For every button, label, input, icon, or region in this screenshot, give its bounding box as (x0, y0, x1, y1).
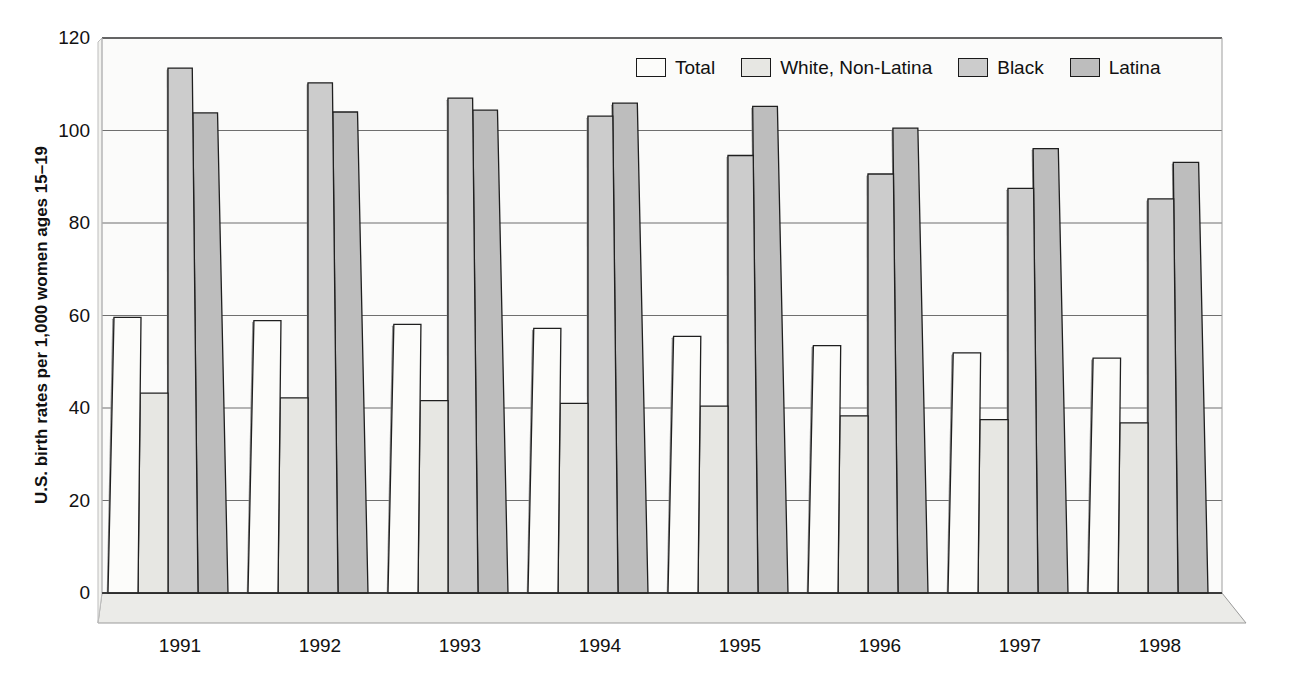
bar (308, 83, 338, 593)
bar (388, 324, 421, 593)
bar (1008, 188, 1038, 593)
plot-area (0, 0, 1290, 674)
bar (448, 98, 478, 593)
legend-label: Latina (1109, 58, 1161, 77)
bar (698, 406, 728, 593)
legend-label: White, Non-Latina (780, 58, 932, 77)
legend-item[interactable]: Latina (1070, 58, 1161, 77)
bar (1148, 199, 1178, 593)
bar (588, 116, 618, 593)
bar (978, 420, 1008, 593)
bar (808, 346, 841, 593)
bar (418, 401, 448, 593)
chart-floor (98, 593, 1246, 623)
bar (668, 336, 701, 593)
legend-label: Total (675, 58, 715, 77)
bar (278, 398, 308, 593)
bar (168, 68, 198, 593)
bar (1088, 358, 1121, 593)
legend-swatch-icon (958, 58, 988, 77)
bar (528, 328, 561, 593)
bar (1118, 423, 1148, 593)
legend-swatch-icon (741, 58, 771, 77)
legend-item[interactable]: Black (958, 58, 1043, 77)
legend-swatch-icon (1070, 58, 1100, 77)
bar (138, 393, 168, 593)
legend-swatch-icon (636, 58, 666, 77)
legend-label: Black (997, 58, 1043, 77)
bar (838, 416, 868, 593)
legend-item[interactable]: White, Non-Latina (741, 58, 932, 77)
bar (558, 403, 588, 593)
bar (108, 317, 141, 593)
bar (948, 353, 981, 593)
legend-item[interactable]: Total (636, 58, 715, 77)
bar-chart: U.S. birth rates per 1,000 women ages 15… (0, 0, 1290, 674)
bar (728, 155, 758, 593)
chart-legend: TotalWhite, Non-LatinaBlackLatina (636, 52, 1186, 82)
bar (248, 321, 281, 593)
bar (868, 174, 898, 593)
